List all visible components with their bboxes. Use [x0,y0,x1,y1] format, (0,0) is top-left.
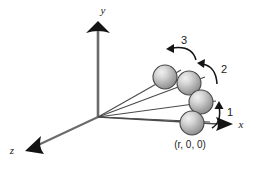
y-axis-label: y [100,4,106,16]
z-axis-arrowhead [25,136,44,154]
x-axis-label: x [238,118,244,130]
rotation-arrow-3: 3 [166,34,196,60]
coordinate-diagram: y z x [0,0,257,171]
figure-container: y z x [0,0,257,171]
spheres-group [153,65,213,135]
sphere-position-1 [180,111,204,135]
rotation-arrow-2: 2 [197,59,227,84]
sphere-position-2 [189,90,213,114]
rotation-arrow-3-label: 3 [181,34,187,46]
sphere-position-4 [153,65,177,89]
z-axis-line [36,117,98,146]
rotation-arrow-1-label: 1 [227,106,233,118]
axes-group: y z x [9,4,244,156]
coordinate-label: (r, 0, 0) [174,139,206,150]
rotation-arrow-2-label: 2 [221,63,227,75]
z-axis-label: z [9,144,15,156]
